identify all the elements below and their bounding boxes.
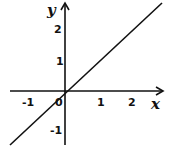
- x-tick-2: 2: [128, 96, 136, 109]
- x-tick-neg1: -1: [22, 96, 34, 109]
- y-axis-label: y: [46, 1, 57, 19]
- y-tick-1: 1: [56, 55, 64, 68]
- line-y-equals-x: [10, 3, 162, 145]
- y-tick-2: 2: [54, 23, 62, 36]
- y-tick-neg1: -1: [50, 124, 62, 137]
- origin-label: 0: [55, 96, 63, 109]
- chart: y x 0 -1 1 2 2 1 -1: [0, 0, 175, 161]
- x-axis-label: x: [150, 95, 161, 113]
- x-tick-1: 1: [97, 96, 105, 109]
